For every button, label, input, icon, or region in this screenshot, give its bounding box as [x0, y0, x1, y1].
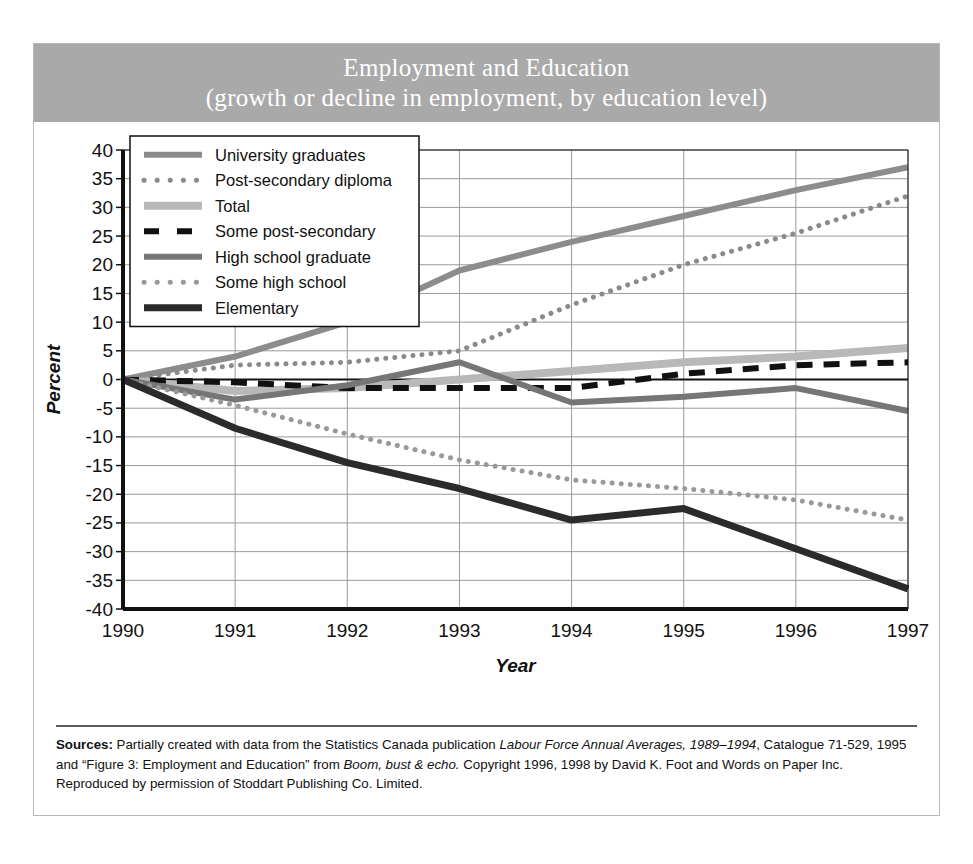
source-italic-2: Boom, bust & echo. — [344, 757, 460, 772]
x-axis-tick-label: 1990 — [102, 620, 144, 641]
plot-area: 4035302520151050-5-10-15-20-25-30-35-401… — [34, 122, 941, 726]
x-axis-tick-label: 1992 — [326, 620, 368, 641]
source-note: Sources: Partially created with data fro… — [34, 725, 939, 815]
y-axis-tick-label: 0 — [102, 369, 113, 390]
figure-panel: Employment and Education (growth or decl… — [33, 43, 940, 816]
y-axis-tick-label: 25 — [92, 226, 113, 247]
y-axis-tick-label: 10 — [92, 312, 113, 333]
y-axis-tick-label: -35 — [86, 570, 113, 591]
y-axis-tick-label: 20 — [92, 254, 113, 275]
y-axis-tick-label: -15 — [86, 455, 113, 476]
y-axis-tick-label: 15 — [92, 283, 113, 304]
legend-label-1: Post-secondary diploma — [215, 171, 393, 189]
legend-label-4: High school graduate — [215, 248, 371, 266]
y-axis-tick-label: -5 — [96, 398, 113, 419]
x-axis-tick-label: 1997 — [887, 620, 929, 641]
chart-title-line-1: Employment and Education — [343, 53, 629, 83]
y-axis-title: Percent — [43, 344, 64, 414]
legend-label-5: Some high school — [215, 273, 346, 291]
legend-label-3: Some post-secondary — [215, 222, 376, 240]
y-axis-tick-label: 35 — [92, 168, 113, 189]
source-text: Sources: Partially created with data fro… — [56, 735, 917, 794]
legend-label-0: University graduates — [215, 146, 365, 164]
legend: University graduatesPost-secondary diplo… — [130, 136, 419, 327]
y-axis-tick-label: 30 — [92, 197, 113, 218]
y-axis-tick-label: -10 — [86, 426, 113, 447]
y-axis-tick-label: 40 — [92, 140, 113, 161]
source-label: Sources: — [56, 737, 113, 752]
line-chart: 4035302520151050-5-10-15-20-25-30-35-401… — [34, 122, 941, 726]
chart-title-banner: Employment and Education (growth or decl… — [34, 44, 939, 122]
x-axis-tick-label: 1996 — [775, 620, 817, 641]
legend-label-2: Total — [215, 197, 250, 215]
x-axis-title: Year — [495, 655, 537, 676]
x-axis-tick-label: 1994 — [550, 620, 593, 641]
y-axis-tick-label: -30 — [86, 541, 113, 562]
legend-label-6: Elementary — [215, 299, 299, 317]
chart-title-line-2: (growth or decline in employment, by edu… — [206, 83, 768, 113]
y-axis-tick-label: -20 — [86, 484, 113, 505]
y-axis-tick-label: -25 — [86, 512, 113, 533]
source-seg-1: Partially created with data from the Sta… — [113, 737, 500, 752]
x-axis-tick-label: 1993 — [438, 620, 480, 641]
source-italic-1: Labour Force Annual Averages, 1989–1994 — [499, 737, 756, 752]
source-divider — [56, 725, 917, 727]
x-axis-tick-label: 1991 — [214, 620, 256, 641]
y-axis-tick-label: 5 — [102, 340, 113, 361]
series-line-6 — [123, 380, 908, 589]
y-axis-tick-label: -40 — [86, 599, 113, 620]
x-axis-tick-label: 1995 — [663, 620, 705, 641]
